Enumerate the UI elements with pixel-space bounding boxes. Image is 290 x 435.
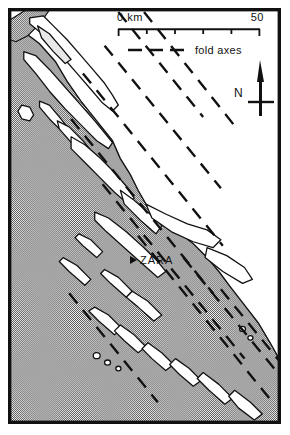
scale-bar: 0 km 50 xyxy=(112,11,267,45)
islet-dot-5 xyxy=(248,336,253,341)
fold-axis-legend-symbol xyxy=(128,45,188,55)
islet-dot-3 xyxy=(116,366,121,371)
fold-axes-legend-label: fold axes xyxy=(195,44,242,56)
islet-dot-2 xyxy=(105,360,111,365)
scale-label-zero: 0 km xyxy=(117,11,143,23)
legend: fold axes xyxy=(128,44,242,56)
scale-label-max: 50 xyxy=(251,11,264,23)
geological-map-figure: 0 km 50 fold axes N xyxy=(0,0,290,435)
islet-dot-1 xyxy=(93,353,100,359)
scale-ruler xyxy=(117,28,261,37)
north-letter: N xyxy=(234,86,243,100)
north-arrow: N xyxy=(232,58,278,120)
city-label-zara: ZARA xyxy=(130,254,173,266)
city-marker-icon xyxy=(130,256,137,264)
city-name-zara: ZARA xyxy=(140,254,173,266)
scale-bar-labels: 0 km 50 xyxy=(112,11,267,26)
